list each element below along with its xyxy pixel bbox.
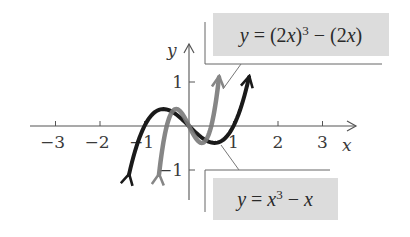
x-tick-label: −3 — [40, 132, 65, 152]
callout-top-label: y = (2x)3 − (2x) — [238, 23, 362, 47]
callout-top-leader — [223, 64, 241, 89]
y-axis-label: y — [166, 40, 177, 60]
x-axis-label: x — [342, 135, 352, 155]
callout-bottom: y = x3 − x — [205, 145, 338, 220]
x-tick-label: −2 — [84, 132, 109, 152]
cubic-graph-figure: y = (2x)3 − (2x) y = x3 − x −3−2−1123 1−… — [0, 0, 410, 237]
y-tick-label: 1 — [172, 72, 183, 92]
callout-bottom-label: y = x3 − x — [235, 187, 313, 211]
callout-top: y = (2x)3 − (2x) — [205, 13, 389, 89]
x-tick-label: 2 — [273, 132, 284, 152]
x-tick-label: 3 — [317, 132, 328, 152]
